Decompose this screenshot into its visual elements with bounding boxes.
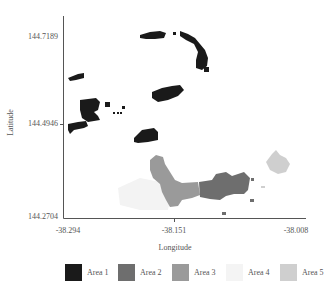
map-plot [0, 0, 336, 300]
legend-swatch-area-4 [226, 264, 243, 281]
legend-swatch-area-1 [65, 264, 82, 281]
legend-label-area-5: Area 5 [302, 268, 324, 277]
y-tick-label: 144.2704 [2, 212, 58, 221]
x-axis-title: Longitude [145, 243, 205, 252]
legend-swatch-area-2 [118, 264, 135, 281]
area-2-region [199, 172, 254, 215]
legend-label-area-4: Area 4 [248, 268, 270, 277]
legend-label-area-3: Area 3 [194, 268, 216, 277]
area-5-region [261, 150, 290, 188]
legend-swatch-area-5 [280, 264, 297, 281]
area-1-region [68, 31, 209, 143]
y-axis-title: Latitude [6, 103, 15, 143]
x-tick-label: -38.151 [149, 226, 199, 235]
legend-swatch-area-3 [172, 264, 189, 281]
legend-label-area-1: Area 1 [87, 268, 109, 277]
legend-label-area-2: Area 2 [140, 268, 162, 277]
y-tick-label: 144.7189 [2, 32, 58, 41]
x-tick-label: -38.294 [43, 226, 93, 235]
x-tick-label: -38.008 [271, 226, 321, 235]
